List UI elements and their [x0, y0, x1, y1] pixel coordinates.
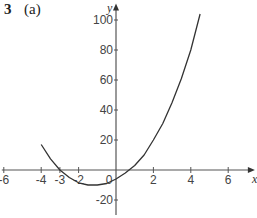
y-axis-label: y	[106, 1, 113, 15]
x-axis-label: x	[251, 172, 257, 186]
y-tick-label: -20	[96, 193, 114, 207]
y-tick-label: 60	[100, 73, 114, 87]
y-axis-arrow-icon	[113, 4, 119, 11]
y-tick-label: 40	[100, 103, 114, 117]
x-tick-label: 6	[225, 173, 232, 187]
chart-plot: -6-4-3-20246-2020406080100xy	[0, 0, 257, 218]
x-tick-label: -6	[0, 173, 9, 187]
x-tick-label: 4	[187, 173, 194, 187]
x-tick-label: 0	[106, 173, 113, 187]
y-tick-label: 80	[100, 43, 114, 57]
x-tick-label: -4	[36, 173, 47, 187]
x-tick-label: -3	[55, 173, 66, 187]
curve-line	[41, 14, 200, 185]
y-tick-label: 100	[93, 13, 113, 27]
y-tick-label: 20	[100, 133, 114, 147]
x-tick-label: 2	[150, 173, 157, 187]
